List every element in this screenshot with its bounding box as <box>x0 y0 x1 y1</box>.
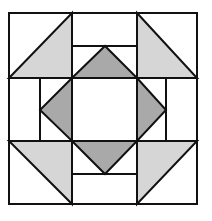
quilt-block-diagram <box>0 0 212 221</box>
center-square <box>72 78 137 141</box>
